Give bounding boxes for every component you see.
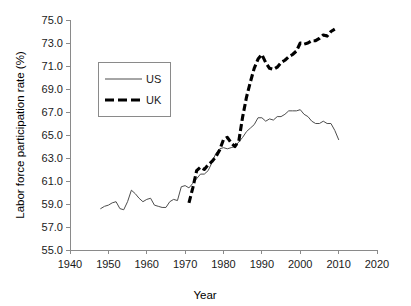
chart-container: 55.057.059.061.063.065.067.069.071.073.0…	[0, 0, 411, 306]
y-tick-label: 71.0	[42, 60, 63, 72]
x-tick-label: 2010	[326, 258, 350, 270]
x-tick-label: 1960	[135, 258, 159, 270]
y-tick-label: 61.0	[42, 175, 63, 187]
legend-label-us: US	[146, 73, 161, 85]
y-axis-title: Labor force participation rate (%)	[14, 51, 26, 219]
x-tick-label: 1940	[58, 258, 82, 270]
x-tick-label: 2000	[288, 258, 312, 270]
legend-box	[98, 62, 170, 116]
chart-legend[interactable]: USUK	[98, 62, 170, 116]
y-tick-label: 69.0	[42, 83, 63, 95]
x-tick-label: 1950	[96, 258, 120, 270]
y-tick-label: 73.0	[42, 37, 63, 49]
legend-label-uk: UK	[146, 94, 162, 106]
y-tick-label: 57.0	[42, 221, 63, 233]
y-tick-label: 75.0	[42, 14, 63, 26]
y-tick-label: 65.0	[42, 129, 63, 141]
x-tick-label: 1980	[211, 258, 235, 270]
x-tick-label: 2020	[365, 258, 389, 270]
x-tick-label: 1990	[250, 258, 274, 270]
x-tick-label: 1970	[173, 258, 197, 270]
y-tick-label: 55.0	[42, 244, 63, 256]
y-tick-label: 59.0	[42, 198, 63, 210]
y-tick-label: 63.0	[42, 152, 63, 164]
y-tick-label: 67.0	[42, 106, 63, 118]
x-axis-title: Year	[193, 289, 216, 301]
line-chart: 55.057.059.061.063.065.067.069.071.073.0…	[0, 0, 411, 306]
